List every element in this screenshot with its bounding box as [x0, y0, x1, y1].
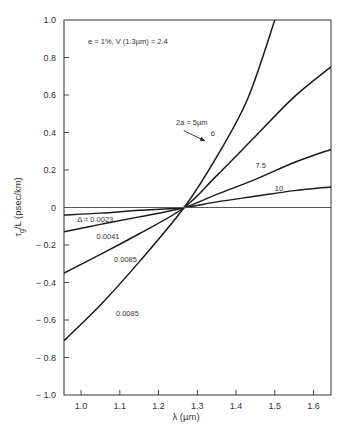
curve-label: 2a = 5µm [176, 118, 208, 127]
curve-series [64, 67, 331, 273]
y-tick-label: 0.8 [43, 53, 56, 63]
curve-label: 6 [211, 129, 215, 138]
label-arrow [184, 131, 205, 141]
curve-label: 10 [275, 184, 283, 193]
chart: 1.00.80.60.40.20− 0.2− 0.4− 0.6− 0.8− 1.… [0, 0, 343, 438]
y-tick-label: 0.6 [43, 90, 56, 100]
curve-label: 0.0085 [114, 255, 137, 264]
x-tick-label: 1.2 [152, 401, 165, 411]
inline-labels: Δ = 0.00230.00410.00850.00852a = 5µm67.5… [77, 118, 283, 318]
y-axis-title: τg/L (psec/km) [12, 177, 26, 237]
x-tick-label: 1.0 [75, 401, 88, 411]
x-axis-ticks: 1.01.11.21.31.41.51.6 [75, 390, 320, 411]
curves [64, 20, 331, 341]
x-tick-label: 1.3 [191, 401, 204, 411]
curve-label: 7.5 [255, 161, 265, 170]
y-axis-title-rest: /L (psec/km) [12, 177, 23, 229]
y-tick-label: 1.0 [43, 15, 56, 25]
curve-series [64, 20, 275, 341]
y-tick-label: 0.4 [43, 128, 56, 138]
curve-label: 0.0085 [116, 309, 139, 318]
y-tick-label: 0 [51, 203, 56, 213]
x-axis-title: λ (µm) [172, 411, 199, 422]
y-tick-label: − 1.0 [36, 390, 56, 400]
y-tick-label: − 0.4 [36, 278, 56, 288]
annotation-text: e = 1%, V (1.3µm) = 2.4 [88, 37, 168, 46]
x-tick-label: 1.6 [307, 401, 320, 411]
curve-label: Δ = 0.0023 [77, 215, 113, 224]
curve-label: 0.0041 [97, 232, 120, 241]
y-tick-label: − 0.2 [36, 240, 56, 250]
y-tick-label: − 0.8 [36, 353, 56, 363]
svg-text:τg/L (psec/km): τg/L (psec/km) [12, 177, 26, 237]
y-tick-label: 0.2 [43, 165, 56, 175]
curve-series [64, 187, 331, 215]
x-tick-label: 1.1 [114, 401, 127, 411]
y-tick-label: − 0.6 [36, 315, 56, 325]
x-tick-label: 1.4 [230, 401, 243, 411]
x-tick-label: 1.5 [269, 401, 282, 411]
